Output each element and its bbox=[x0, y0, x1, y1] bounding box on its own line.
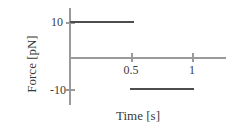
x-tick-mark-1 bbox=[192, 53, 194, 62]
force-time-chart: 10 -10 0.5 1 Force [pN] Time [s] bbox=[0, 0, 243, 129]
data-segment-negative bbox=[130, 88, 194, 90]
data-segment-positive bbox=[70, 21, 134, 23]
x-axis-line bbox=[69, 57, 226, 59]
x-axis-title: Time [s] bbox=[116, 108, 160, 124]
y-axis-title: Force [pN] bbox=[24, 14, 40, 114]
x-tick-label-0.5: 0.5 bbox=[124, 64, 139, 76]
y-tick-mark-neg10 bbox=[66, 89, 75, 91]
x-tick-label-1: 1 bbox=[189, 64, 195, 76]
x-tick-mark-0.5 bbox=[131, 53, 133, 62]
